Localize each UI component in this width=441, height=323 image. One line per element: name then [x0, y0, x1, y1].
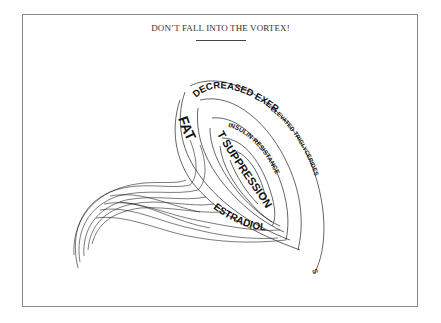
- label-decreased: DECREASED EXERCISE: [0, 0, 281, 114]
- vortex-illustration: DECREASED EXERCISE ELEVATED TRIGLYCERIDE…: [0, 0, 441, 323]
- label-trailing-s: S: [311, 268, 319, 275]
- label-fat: FAT: [175, 114, 199, 143]
- label-t-suppression: T SUPPRESSION: [215, 129, 274, 210]
